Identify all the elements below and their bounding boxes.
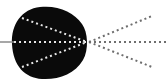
outer-diverging-rays [89,16,168,67]
lens-diagram [0,0,168,81]
diagram-canvas [0,0,168,81]
outer-ray-0 [89,16,152,42]
outer-ray-2 [89,42,152,67]
